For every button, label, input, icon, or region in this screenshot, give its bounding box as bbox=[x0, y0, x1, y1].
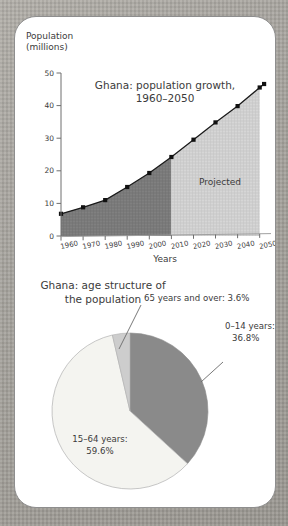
x-axis-title: Years bbox=[152, 254, 177, 264]
line-chart-title-line2: 1960–2050 bbox=[136, 92, 195, 104]
population-growth-plot: 0 10 20 30 40 50 19 bbox=[15, 17, 276, 265]
x-tick-1980: 1980 bbox=[104, 239, 123, 251]
y-tick-30: 30 bbox=[44, 134, 54, 143]
x-tick-1990: 1990 bbox=[126, 239, 145, 251]
x-tick-1970: 1970 bbox=[82, 239, 101, 251]
x-tick-2050: 2050 bbox=[258, 239, 276, 251]
x-tick-2040: 2040 bbox=[236, 239, 255, 251]
y-axis-ticks bbox=[57, 73, 62, 236]
y-tick-10: 10 bbox=[44, 199, 54, 208]
y-axis-title: Population (millions) bbox=[26, 31, 73, 53]
x-axis-tick-labels: 1960 1970 1980 1990 2000 2010 2020 2030 … bbox=[60, 239, 276, 251]
population-growth-chart: Population (millions) bbox=[15, 17, 276, 265]
x-tick-2000: 2000 bbox=[148, 239, 167, 251]
age-structure-plot: Ghana: age structure of the population 6… bbox=[15, 265, 276, 508]
line-chart-title-line1: Ghana: population growth, bbox=[95, 79, 235, 91]
line-chart-title: Ghana: population growth, 1960–2050 bbox=[95, 79, 235, 104]
content-panel: Population (millions) bbox=[14, 16, 276, 508]
y-tick-50: 50 bbox=[44, 69, 54, 78]
x-tick-2010: 2010 bbox=[170, 239, 189, 251]
pie-chart-title-line2: the population bbox=[65, 293, 141, 305]
pie-label-0-14-line1: 0–14 years: bbox=[225, 321, 275, 331]
x-tick-2030: 2030 bbox=[214, 239, 233, 251]
x-tick-1960: 1960 bbox=[60, 239, 79, 251]
projected-annotation: Projected bbox=[199, 177, 241, 187]
pie-label-15-64-line1: 15–64 years: bbox=[72, 434, 127, 444]
pie-label-65-over: 65 years and over: 3.6% bbox=[144, 293, 249, 303]
leader-line-0-14 bbox=[201, 362, 223, 382]
age-structure-chart: Ghana: age structure of the population 6… bbox=[15, 265, 276, 508]
x-tick-2020: 2020 bbox=[192, 239, 211, 251]
y-tick-40: 40 bbox=[44, 101, 54, 110]
pie-chart-title-line1: Ghana: age structure of bbox=[40, 279, 165, 291]
y-tick-0: 0 bbox=[49, 232, 54, 241]
y-axis-tick-labels: 0 10 20 30 40 50 bbox=[44, 69, 54, 241]
pie-label-0-14-line2: 36.8% bbox=[232, 333, 259, 343]
projected-area bbox=[171, 88, 259, 237]
pie-label-0-14: 0–14 years: 36.8% bbox=[225, 321, 275, 343]
y-tick-20: 20 bbox=[44, 166, 54, 175]
pie-label-15-64-line2: 59.6% bbox=[86, 446, 113, 456]
